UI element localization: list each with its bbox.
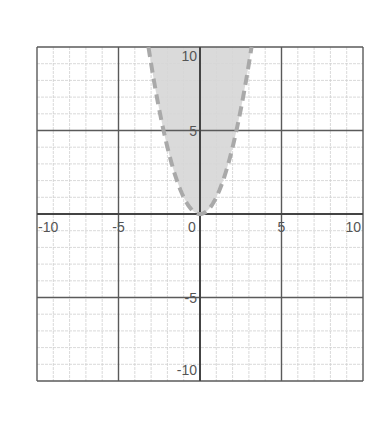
y-tick-label: 5	[189, 123, 197, 139]
y-tick-label: -5	[185, 290, 198, 306]
y-tick-label: 10	[181, 48, 197, 64]
x-tick-label: -5	[112, 219, 125, 235]
x-tick-label: -10	[38, 219, 58, 235]
x-tick-label: 5	[278, 219, 286, 235]
coordinate-plane: -10-50510105-5-10	[0, 0, 380, 435]
x-tick-label: 10	[345, 219, 361, 235]
y-tick-label: -10	[177, 362, 197, 378]
x-tick-label: 0	[188, 219, 196, 235]
